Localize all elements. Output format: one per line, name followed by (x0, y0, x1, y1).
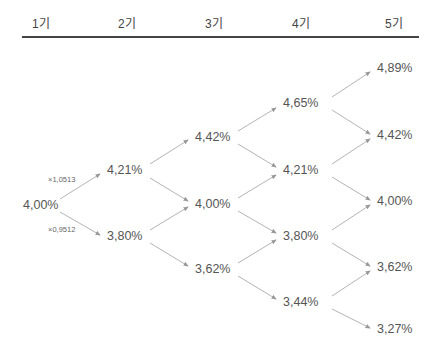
node-p2-0: 4,21% (107, 163, 142, 177)
node-p5-1: 4,42% (377, 128, 412, 142)
up-multiplier: ×1,0513 (48, 175, 75, 184)
node-p4-1: 4,21% (283, 163, 318, 177)
node-p1-0: 4,00% (23, 198, 58, 212)
down-multiplier: ×0,9512 (48, 225, 75, 234)
node-p3-2: 3,62% (195, 262, 230, 276)
node-p5-2: 4,00% (377, 194, 412, 208)
node-p3-1: 4,00% (195, 197, 230, 211)
node-p5-4: 3,27% (377, 322, 412, 336)
node-p2-1: 3,80% (107, 229, 142, 243)
node-p4-0: 4,65% (283, 96, 318, 110)
node-p3-0: 4,42% (195, 130, 230, 144)
node-p4-3: 3,44% (283, 295, 318, 309)
node-p5-0: 4,89% (377, 61, 412, 75)
node-p4-2: 3,80% (283, 229, 318, 243)
node-p5-3: 3,62% (377, 260, 412, 274)
